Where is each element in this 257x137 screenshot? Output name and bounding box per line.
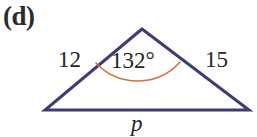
right-side-length-label: 15 [205, 48, 228, 72]
left-side-length-label: 12 [58, 48, 81, 72]
base-length-label: p [131, 112, 143, 136]
vertex-angle-label: 132° [111, 49, 155, 73]
geometry-figure: (d) 12 15 132° p [0, 0, 257, 137]
